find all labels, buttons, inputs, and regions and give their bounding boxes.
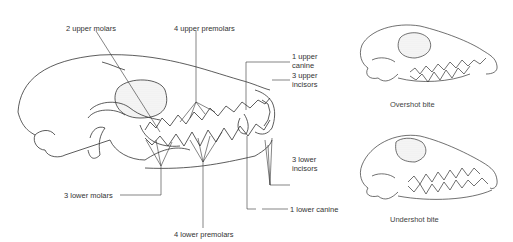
leader-lines — [96, 31, 290, 228]
label-lower-molars: 3 lower molars — [64, 191, 113, 200]
label-lower-incisors-line1: 3 lower — [292, 155, 316, 164]
label-upper-canine-line1: 1 upper — [292, 52, 317, 61]
label-upper-incisors-line1: 3 upper — [292, 71, 317, 80]
label-upper-canine-line2: canine — [292, 61, 314, 70]
label-upper-premolars: 4 upper premolars — [174, 24, 235, 33]
overshot-skull — [360, 25, 497, 82]
label-lower-canine: 1 lower canine — [290, 205, 338, 214]
label-lower-premolars: 4 lower premolars — [174, 230, 234, 239]
caption-undershot: Undershot bite — [390, 215, 439, 224]
main-skull — [18, 55, 275, 169]
label-upper-molars: 2 upper molars — [66, 24, 116, 33]
undershot-skull — [360, 135, 497, 199]
label-lower-incisors-line2: incisors — [292, 164, 317, 173]
dog-skull-diagram — [0, 0, 513, 242]
label-upper-incisors-line2: incisors — [292, 80, 317, 89]
caption-overshot: Overshot bite — [390, 100, 435, 109]
